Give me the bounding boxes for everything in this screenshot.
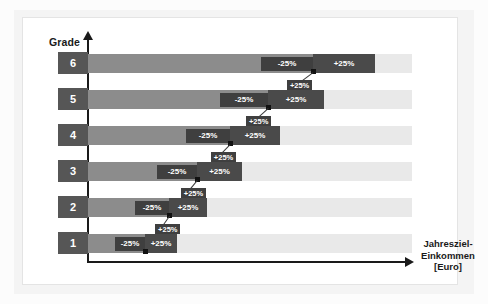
grade-label-2: 2 (58, 196, 88, 218)
grade-label-6: 6 (58, 52, 88, 74)
x-axis-title-line1: Jahresziel- (416, 238, 480, 250)
minus-band-tag-1: -25% (115, 237, 145, 251)
x-axis-line (87, 261, 407, 263)
band-midpoint-marker-1 (143, 249, 148, 254)
plus-band-tag-2: +25% (169, 198, 207, 217)
y-axis-arrow-icon (83, 31, 93, 40)
y-axis-title: Grade (49, 36, 80, 48)
minus-band-tag-5: -25% (220, 93, 268, 107)
minus-band-tag-6: -25% (261, 57, 313, 71)
plus-band-tag-3: +25% (197, 162, 242, 181)
x-axis-title-line2: Einkommen (416, 250, 480, 262)
x-axis-arrow-icon (405, 257, 414, 267)
minus-band-tag-2: -25% (135, 201, 169, 215)
plus-band-tag-4: +25% (230, 126, 280, 145)
chart-canvas: Grade Jahresziel- Einkommen [Euro] 6-25%… (0, 0, 488, 304)
minus-band-tag-4: -25% (186, 129, 230, 143)
grade-label-3: 3 (58, 160, 88, 182)
x-axis-title-line3: [Euro] (416, 261, 480, 273)
grade-label-4: 4 (58, 124, 88, 146)
x-axis-title: Jahresziel- Einkommen [Euro] (416, 238, 480, 273)
plus-band-tag-1: +25% (145, 234, 177, 253)
grade-label-1: 1 (58, 232, 88, 254)
grade-label-5: 5 (58, 88, 88, 110)
plus-band-tag-5: +25% (268, 90, 324, 109)
minus-band-tag-3: -25% (157, 165, 197, 179)
plus-band-tag-6: +25% (313, 54, 375, 73)
